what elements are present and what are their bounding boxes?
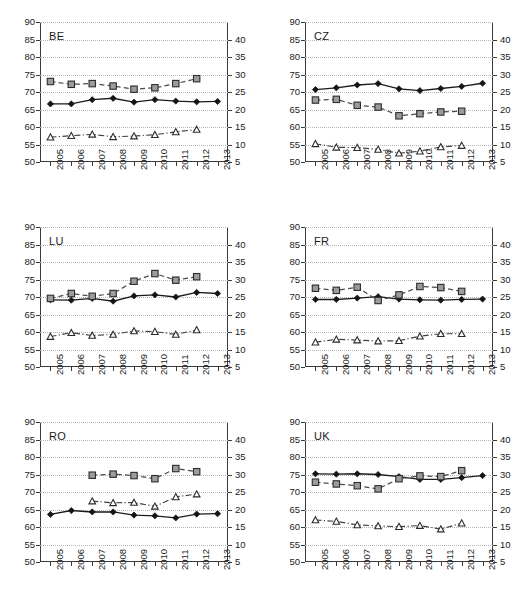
series-layer — [265, 0, 529, 205]
small-multiples-grid: 9085807570656055504035302520151052005200… — [0, 0, 529, 606]
chart-panel-ro: 9085807570656055504035302520151052005200… — [0, 400, 265, 606]
chart-panel-lu: 9085807570656055504035302520151052005200… — [0, 205, 265, 400]
series-layer — [0, 400, 265, 605]
chart-panel-uk: 9085807570656055504035302520151052005200… — [265, 400, 529, 606]
series-layer — [265, 400, 529, 605]
chart-panel-fr: 9085807570656055504035302520151052005200… — [265, 205, 529, 400]
series-layer — [0, 205, 265, 410]
chart-panel-cz: 9085807570656055504035302520151052005200… — [265, 0, 529, 205]
series-layer — [0, 0, 265, 205]
series-layer — [265, 205, 529, 410]
chart-panel-be: 9085807570656055504035302520151052005200… — [0, 0, 265, 205]
